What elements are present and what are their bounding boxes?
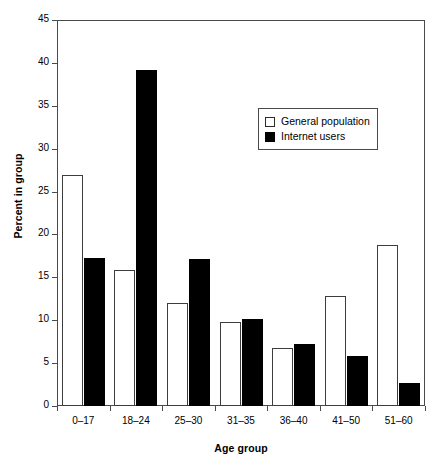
y-tick-label: 35	[38, 99, 49, 110]
legend-label-general-population: General population	[281, 116, 370, 127]
y-tick-label: 25	[38, 185, 49, 196]
y-tick-mark	[52, 192, 57, 193]
bar-internet-users	[399, 383, 420, 406]
y-tick-label: 45	[38, 13, 49, 24]
legend-item-general-population: General population	[265, 114, 370, 129]
bar-general-population	[62, 175, 83, 406]
y-tick-mark	[52, 149, 57, 150]
bar-general-population	[325, 296, 346, 406]
y-tick-mark	[52, 20, 57, 21]
x-tick-label: 31–35	[211, 415, 271, 426]
y-tick-mark	[52, 277, 57, 278]
bar-internet-users	[294, 344, 315, 406]
legend-swatch-filled-icon	[265, 132, 275, 142]
bar-general-population	[272, 348, 293, 406]
y-tick-label: 10	[38, 313, 49, 324]
y-tick-label: 30	[38, 142, 49, 153]
x-tick-label: 0–17	[53, 415, 113, 426]
legend-swatch-open-icon	[265, 117, 275, 127]
bar-internet-users	[84, 258, 105, 406]
bar-general-population	[167, 303, 188, 406]
y-tick-mark	[52, 320, 57, 321]
x-tick-mark	[215, 406, 216, 411]
bar-internet-users	[347, 356, 368, 406]
bar-general-population	[220, 322, 241, 406]
legend-label-internet-users: Internet users	[281, 131, 345, 142]
x-tick-mark	[320, 406, 321, 411]
x-tick-mark	[267, 406, 268, 411]
y-tick-mark	[52, 63, 57, 64]
legend: General population Internet users	[258, 108, 378, 150]
y-tick-mark	[52, 363, 57, 364]
y-axis-title: Percent in group	[12, 116, 24, 276]
y-tick-mark	[52, 234, 57, 235]
x-tick-mark	[425, 406, 426, 411]
x-tick-label: 51–60	[369, 415, 429, 426]
bar-chart-figure: Percent in group 051015202530354045 0–17…	[0, 0, 444, 473]
x-tick-mark	[372, 406, 373, 411]
x-axis-title: Age group	[57, 442, 425, 454]
y-tick-mark	[52, 106, 57, 107]
bar-general-population	[377, 245, 398, 406]
y-tick-label: 20	[38, 227, 49, 238]
bar-internet-users	[136, 70, 157, 406]
x-tick-mark	[57, 406, 58, 411]
x-tick-label: 36–40	[264, 415, 324, 426]
x-tick-label: 25–30	[158, 415, 218, 426]
y-tick-label: 40	[38, 56, 49, 67]
y-tick-label: 0	[43, 399, 49, 410]
x-tick-mark	[110, 406, 111, 411]
legend-item-internet-users: Internet users	[265, 129, 370, 144]
x-tick-label: 18–24	[106, 415, 166, 426]
x-tick-label: 41–50	[316, 415, 376, 426]
bar-internet-users	[189, 259, 210, 406]
y-tick-label: 5	[43, 356, 49, 367]
x-tick-mark	[162, 406, 163, 411]
bar-general-population	[114, 270, 135, 406]
y-tick-label: 15	[38, 270, 49, 281]
bar-internet-users	[242, 319, 263, 406]
